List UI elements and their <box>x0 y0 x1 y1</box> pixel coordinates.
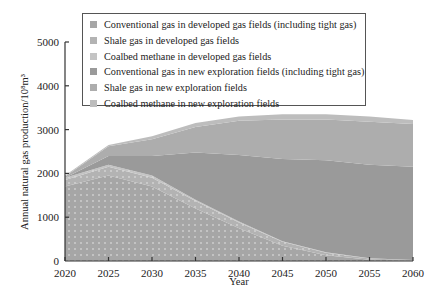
x-tick-label: 2050 <box>315 267 338 279</box>
x-tick-label: 2060 <box>402 267 425 279</box>
y-tick-label: 2000 <box>37 167 60 179</box>
legend-swatch-icon <box>90 84 97 91</box>
legend-label: Coalbed methane in developed gas fields <box>104 51 271 62</box>
y-tick-label: 5000 <box>37 36 60 48</box>
legend-swatch-icon <box>90 68 97 75</box>
y-tick-label: 1000 <box>37 211 60 223</box>
plot-areas <box>65 114 413 261</box>
y-tick-label: 3000 <box>37 124 60 136</box>
x-tick-label: 2030 <box>141 267 164 279</box>
legend-swatch-icon <box>90 37 97 44</box>
legend-label: Conventional gas in developed gas fields… <box>104 19 356 30</box>
legend-item: Shale gas in developed gas fields <box>90 33 365 49</box>
legend-swatch-icon <box>90 53 97 60</box>
legend-swatch-icon <box>90 100 97 107</box>
legend-item: Coalbed methane in developed gas fields <box>90 48 365 64</box>
legend-label: Shale gas in new exploration fields <box>104 82 247 93</box>
y-axis-title: Annual natural gas production/10⁸m³ <box>19 74 30 230</box>
legend-label: Coalbed methane in new exploration field… <box>104 98 279 109</box>
legend-label: Shale gas in developed gas fields <box>104 35 239 46</box>
x-axis-title: Year <box>229 276 249 287</box>
y-tick-label: 4000 <box>37 80 60 92</box>
legend-item: Shale gas in new exploration fields <box>90 80 365 96</box>
x-tick-label: 2020 <box>54 267 77 279</box>
chart-legend: Conventional gas in developed gas fields… <box>82 13 366 106</box>
x-tick-label: 2035 <box>185 267 208 279</box>
legend-label: Conventional gas in new exploration fiel… <box>104 66 364 77</box>
legend-item: Conventional gas in new exploration fiel… <box>90 64 365 80</box>
legend-item: Coalbed methane in new exploration field… <box>90 95 365 111</box>
x-tick-label: 2045 <box>272 267 295 279</box>
x-tick-label: 2055 <box>359 267 382 279</box>
legend-swatch-icon <box>90 21 97 28</box>
y-tick-label: 0 <box>54 255 60 267</box>
legend-item: Conventional gas in developed gas fields… <box>90 17 365 33</box>
x-tick-label: 2025 <box>98 267 121 279</box>
